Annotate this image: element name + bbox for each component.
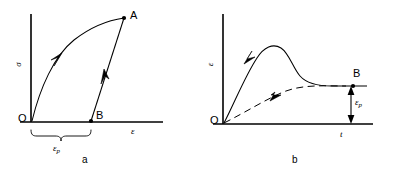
panel-a-caption: a <box>82 155 88 165</box>
panel-a-unloading-arrowhead <box>101 69 109 84</box>
panel-a-brace <box>31 130 91 141</box>
panel-a-graphic <box>0 0 200 174</box>
panel-a-origin-label: O <box>18 113 27 124</box>
panel-b-y-axis-label: ε <box>206 63 215 67</box>
panel-b-graphic <box>201 0 401 174</box>
panel-a-unloading-line <box>91 18 124 121</box>
panel-a-point-b-label: B <box>96 110 103 121</box>
panel-b-plastic-strain-subscript: p <box>359 101 363 109</box>
panel-a-y-axis-label: σ <box>14 62 23 66</box>
panel-a-point-b-marker <box>89 119 93 123</box>
panel-b-origin-label: O <box>210 115 219 126</box>
panel-b-total-strain-arrowhead <box>244 51 255 64</box>
panel-a-x-axis-label: ε <box>131 127 135 136</box>
panel-b-x-axis-label: t <box>340 130 343 139</box>
panel-b-plastic-strain-curve <box>224 86 346 123</box>
panel-b-plastic-strain-label: εp <box>355 98 362 109</box>
panel-a-plastic-strain-label: εp <box>53 144 60 155</box>
panel-b: ε t O B εp b <box>201 0 401 174</box>
panel-b-plastic-strain-arrow-head-down <box>348 115 355 124</box>
panel-a-point-a-label: A <box>130 10 137 21</box>
panel-b-point-b-label: B <box>353 68 360 79</box>
panel-a: σ ε O A B εp a <box>0 0 200 174</box>
panel-a-plastic-strain-subscript: p <box>57 147 61 155</box>
panel-a-loading-curve <box>32 18 124 121</box>
panel-a-point-a-marker <box>122 16 126 20</box>
figure-container: σ ε O A B εp a <box>0 0 401 174</box>
panel-b-caption: b <box>292 155 298 165</box>
